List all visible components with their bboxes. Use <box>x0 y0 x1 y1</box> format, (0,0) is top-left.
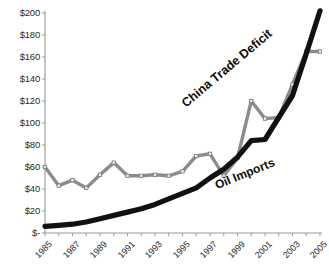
data-point-marker <box>318 50 321 53</box>
data-point-marker <box>250 99 253 102</box>
series-line-china-trade-deficit <box>45 11 320 227</box>
cut-off-caption <box>0 264 324 272</box>
y-axis-tick-label: $80 <box>2 139 40 150</box>
data-point-marker <box>140 174 143 177</box>
x-axis-ticks <box>45 233 320 236</box>
y-axis-tick-label: $100 <box>2 117 40 128</box>
data-point-marker <box>208 152 211 155</box>
data-point-marker <box>181 170 184 173</box>
y-axis-tick-label: $120 <box>2 95 40 106</box>
y-axis-tick-label: $200 <box>2 7 40 18</box>
y-axis-tick-label: $60 <box>2 161 40 172</box>
data-point-marker <box>43 165 46 168</box>
y-axis-tick-label: $160 <box>2 51 40 62</box>
data-point-marker <box>195 154 198 157</box>
y-axis-tick-label: $180 <box>2 29 40 40</box>
y-axis-tick-label: $- <box>2 227 40 238</box>
data-point-marker <box>98 173 101 176</box>
data-point-marker <box>112 161 115 164</box>
data-point-marker <box>71 179 74 182</box>
data-point-marker <box>126 174 129 177</box>
data-point-marker <box>153 173 156 176</box>
data-point-marker <box>85 186 88 189</box>
data-point-marker <box>263 117 266 120</box>
y-axis-tick-label: $20 <box>2 205 40 216</box>
data-point-marker <box>57 184 60 187</box>
y-axis-tick-label: $40 <box>2 183 40 194</box>
y-axis-tick-label: $140 <box>2 73 40 84</box>
data-point-marker <box>167 174 170 177</box>
